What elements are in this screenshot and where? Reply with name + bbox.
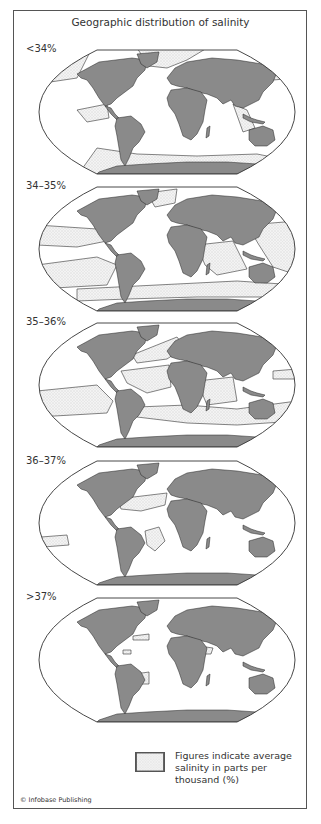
copyright-credit: © Infobase Publishing — [20, 796, 92, 804]
map-lt34 — [37, 48, 297, 176]
figure-title: Geographic distribution of salinity — [0, 16, 321, 28]
zone-tropical-atlantic — [123, 650, 131, 654]
map-36-37 — [37, 459, 297, 587]
map-34-35 — [37, 185, 297, 313]
legend-stipple-swatch — [135, 752, 165, 772]
map-35-36 — [37, 321, 297, 449]
legend-text: Figures indicate average salinity in par… — [175, 750, 300, 786]
map-gt37 — [37, 596, 297, 724]
zone-south-pacific — [37, 385, 113, 417]
